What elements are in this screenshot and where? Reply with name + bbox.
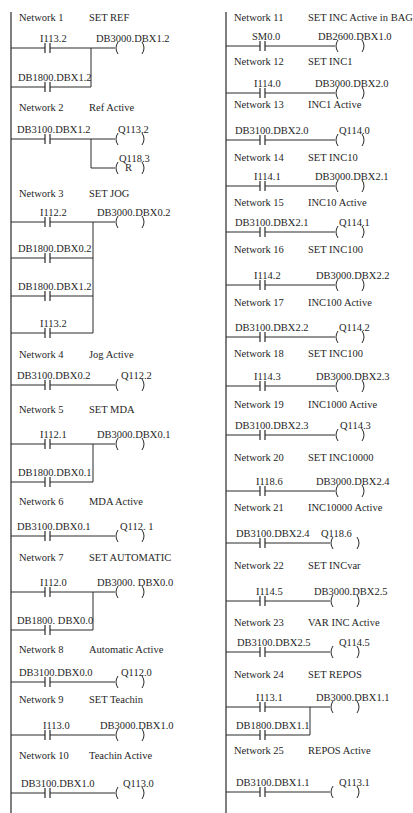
network-title: SET AUTOMATIC [89,552,171,564]
coil-address: DB3000.DBX0.2 [97,207,171,219]
coil-address: DB3000.DBX2.2 [316,270,390,282]
contact-address: DB3100.DBX2.3 [235,420,309,432]
network-title: INC100 Active [308,297,372,309]
coil-open-paren [331,646,333,658]
network-number: Network 19 [234,399,284,411]
network-number: Network 9 [19,694,64,706]
contact-address: DB3100.DBX2.1 [235,217,309,229]
network-number: Network 6 [19,496,64,508]
coil-address: Q112.0 [121,667,152,679]
network-title: SET INCvar [308,560,361,572]
network-number: Network 5 [19,404,64,416]
network-number: Network 16 [234,244,284,256]
coil-open-paren [331,786,333,798]
contact-address: DB3100.DBX0.0 [19,667,93,679]
coil-open-paren [336,226,338,238]
coil-address: DB3000.DBX2.1 [315,171,389,183]
contact-address: DB3100.DBX2.4 [236,528,310,540]
coil-address: DB3000.DBX1.2 [96,33,170,45]
network-title: INC1 Active [308,99,361,111]
network-title: INC10 Active [308,197,367,209]
network-title: INC10000 Active [308,502,382,514]
contact-address: I118.6 [256,476,283,488]
contact-address: I113.2 [40,33,67,45]
network-title: MDA Active [89,496,143,508]
contact-address: I113.2 [40,318,67,330]
contact-address: SM0.0 [252,31,280,43]
network-title: SET REPOS [308,669,362,681]
network-number: Network 2 [19,102,64,114]
coil-address: Q114.1 [339,217,370,229]
contact-address: DB3100.DBX1.1 [236,777,310,789]
coil-open-paren [116,379,118,391]
coil-open-paren [116,530,118,542]
coil-address: DB3000.DBX2.0 [315,78,389,90]
network-number: Network 18 [234,348,284,360]
network-number: Network 15 [234,197,284,209]
network-number: Network 17 [234,297,284,309]
contact-address: DB3100.DBX2.0 [235,125,309,137]
contact-address: DB3100.DBX2.2 [235,322,309,334]
coil-open-paren [116,162,118,174]
contact-address: DB1800.DBX0.2 [18,243,92,255]
contact-address: I113.0 [43,720,70,732]
coil-open-paren [336,331,338,343]
network-number: Network 23 [234,617,284,629]
network-number: Network 21 [234,502,284,514]
network-number: Network 10 [19,750,69,762]
contact-address: DB1800.DBX1.1 [236,720,310,732]
coil-address: Q118.3 [119,153,150,165]
contact-address: DB1800.DBX1.2 [18,281,92,293]
contact-address: I114.3 [254,371,281,383]
network-title: SET JOG [89,188,129,200]
contact-address: I112.1 [40,429,67,441]
coil-address: DB3000.DBX2.3 [316,371,390,383]
network-number: Network 8 [19,644,64,656]
network-title: Automatic Active [89,644,163,656]
contact-address: DB1800. DBX0.0 [17,615,93,627]
network-title: Jog Active [89,349,134,361]
coil-address: Q114.3 [340,420,371,432]
network-number: Network 3 [19,188,64,200]
network-title: SET INC10 [308,152,358,164]
coil-open-paren [336,429,338,441]
coil-open-paren [336,134,338,146]
coil-address: DB3000.DBX0.1 [97,429,171,441]
network-title: SET MDA [89,404,135,416]
contact-address: DB1800.DBX0.1 [18,467,92,479]
coil-address: Q114.2 [339,322,370,334]
network-number: Network 22 [234,560,284,572]
network-number: Network 7 [19,552,64,564]
coil-address: Q114.0 [339,125,370,137]
network-number: Network 1 [19,12,64,24]
contact-address: DB3100.DBX1.2 [17,124,91,136]
contact-address: I113.1 [256,692,283,704]
contact-address: I112.0 [40,577,67,589]
coil-address: Q114.5 [339,637,370,649]
network-title: SET INC100 [308,348,363,360]
network-title: REPOS Active [308,745,371,757]
coil-address: Q113.2 [118,124,149,136]
contact-address: I114.1 [254,171,281,183]
contact-address: I114.0 [254,78,281,90]
coil-address: DB3000.DBX2.4 [316,476,390,488]
network-title: SET INC10000 [308,452,373,464]
coil-address: DB2600.DBX1.0 [318,31,392,43]
coil-close-paren [357,537,359,549]
network-number: Network 13 [234,99,284,111]
network-title: INC1000 Active [308,399,377,411]
contact-address: DB3100.DBX0.2 [17,370,91,382]
contact-address: I112.2 [40,207,67,219]
network-title: SET INC100 [308,244,363,256]
coil-type-reset: R [125,162,132,174]
coil-address: Q113.0 [123,778,154,790]
network-number: Network 14 [234,152,284,164]
contact-address: DB3100.DBX2.5 [237,637,311,649]
network-title: Ref Active [89,102,134,114]
network-title: SET INC1 [308,56,352,68]
contact-address: DB3100.DBX1.0 [21,778,95,790]
network-title: SET REF [89,12,129,24]
coil-address: DB3000.DBX1.0 [100,720,174,732]
coil-open-paren [116,787,118,799]
network-number: Network 20 [234,452,284,464]
